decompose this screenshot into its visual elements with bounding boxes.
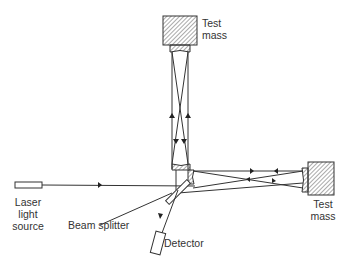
- diagram-canvas: [0, 0, 351, 267]
- beam-splitter-label: Beam splitter: [68, 219, 129, 231]
- laser-label: Laser light source: [8, 196, 48, 232]
- laser-source: [15, 182, 42, 188]
- label-line: light: [8, 208, 48, 220]
- label-line: source: [8, 220, 48, 232]
- right-test-mass: [308, 162, 334, 195]
- label-line: mass: [202, 29, 227, 41]
- detector-label: Detector: [164, 237, 204, 249]
- label-line: Test: [308, 198, 338, 210]
- top-far-mirror: [170, 45, 190, 52]
- label-line: Laser: [8, 196, 48, 208]
- interferometer-diagram: Test mass Test mass Laser light source B…: [0, 0, 351, 267]
- vertical-near-mirror: [172, 164, 190, 170]
- label-line: mass: [308, 210, 338, 222]
- right-test-mass-label: Test mass: [308, 198, 338, 222]
- top-test-mass-label: Test mass: [202, 17, 227, 41]
- label-line: Test: [202, 17, 227, 29]
- top-test-mass: [163, 16, 197, 45]
